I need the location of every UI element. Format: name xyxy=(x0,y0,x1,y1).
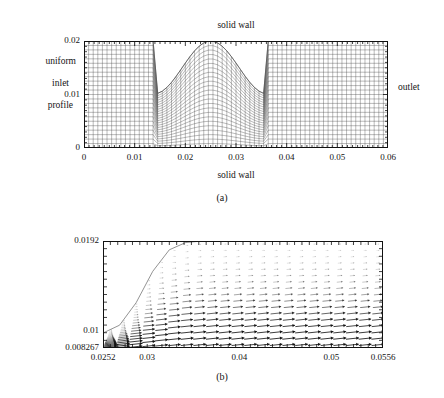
panel-a-inlet-label-line1: uniform xyxy=(45,56,76,66)
panel-a-mesh-plot xyxy=(84,41,388,148)
panel-a-y-tick: 0 xyxy=(76,142,81,152)
panel-b-vector-plot xyxy=(103,241,383,348)
panel-b-x-tick: 0.05 xyxy=(324,352,340,362)
panel-a-caption: (a) xyxy=(0,192,444,203)
panel-a-frame xyxy=(84,41,388,148)
panel-a-y-tick: 0.02 xyxy=(64,35,80,45)
panel-b-y-tick: 0.01 xyxy=(83,325,99,335)
panel-b-frame xyxy=(103,241,383,348)
panel-b-x-tick: 0.0556 xyxy=(371,352,396,362)
panel-b-x-tick: 0.0252 xyxy=(91,352,116,362)
figure-container: solid wall uniform inlet profile outlet … xyxy=(0,0,444,398)
panel-a-x-tick: 0 xyxy=(82,152,87,162)
panel-b-y-tick: 0.0192 xyxy=(74,235,99,245)
panel-b-x-tick: 0.04 xyxy=(231,352,247,362)
panel-a-outlet-label: outlet xyxy=(398,82,420,92)
panel-a-y-tick: 0.01 xyxy=(64,89,80,99)
panel-a-x-tick: 0.03 xyxy=(228,152,244,162)
panel-b-y-tick: 0.008267 xyxy=(65,342,99,352)
panel-a-top-wall-label: solid wall xyxy=(217,20,254,30)
panel-a-inlet-label-line3: profile xyxy=(48,100,73,110)
panel-a-x-tick: 0.04 xyxy=(279,152,295,162)
panel-a-x-tick: 0.05 xyxy=(329,152,345,162)
panel-b-caption: (b) xyxy=(0,371,444,382)
panel-a-x-tick: 0.06 xyxy=(380,152,396,162)
panel-a-inlet-label-line2: inlet xyxy=(52,78,69,88)
panel-b-x-tick: 0.03 xyxy=(139,352,155,362)
panel-a-x-tick: 0.02 xyxy=(177,152,193,162)
panel-a-x-tick: 0.01 xyxy=(127,152,143,162)
panel-a-bottom-wall-label: solid wall xyxy=(217,170,254,180)
